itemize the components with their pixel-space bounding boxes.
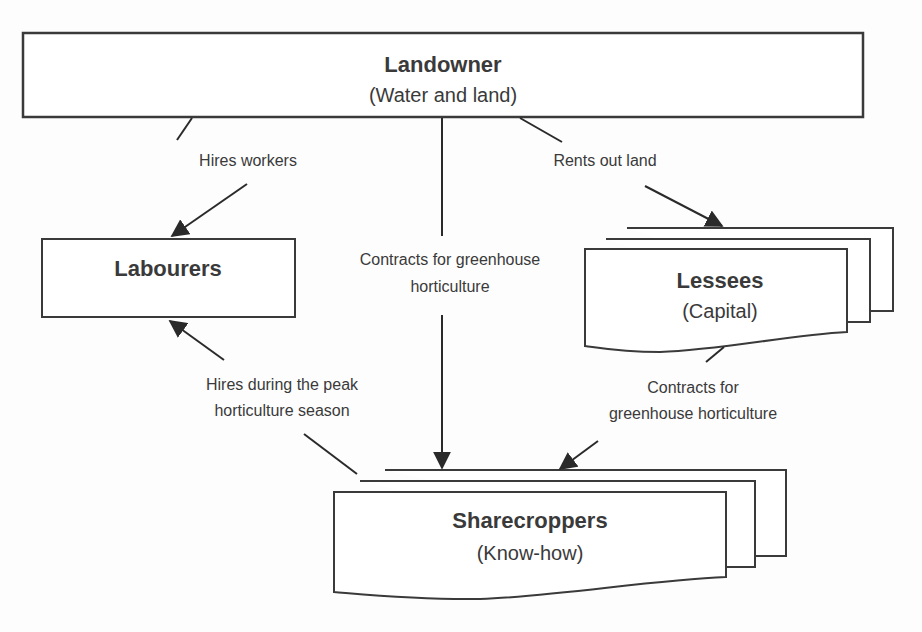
- sharecroppers-subtitle: (Know-how): [477, 542, 584, 564]
- label-hires-peak-1: Hires during the peak: [206, 376, 359, 393]
- landowner-title: Landowner: [384, 52, 502, 77]
- label-contracts-lessees-1: Contracts for: [647, 379, 739, 396]
- diagram-canvas: Landowner (Water and land) Labourers Les…: [0, 0, 922, 632]
- landowner-subtitle: (Water and land): [369, 84, 517, 106]
- label-rents-out-land: Rents out land: [553, 152, 656, 169]
- flow-diagram: Landowner (Water and land) Labourers Les…: [0, 0, 922, 632]
- label-contracts-lessees-2: greenhouse horticulture: [609, 405, 777, 422]
- lessees-title: Lessees: [677, 268, 764, 293]
- node-landowner: Landowner (Water and land): [23, 33, 863, 117]
- node-labourers: Labourers: [42, 239, 295, 317]
- sharecroppers-title: Sharecroppers: [452, 508, 607, 533]
- label-hires-peak-2: horticulture season: [214, 402, 349, 419]
- lessees-subtitle: (Capital): [682, 300, 758, 322]
- label-hires-workers: Hires workers: [199, 152, 297, 169]
- label-contracts-landowner-2: horticulture: [410, 278, 489, 295]
- label-contracts-landowner-1: Contracts for greenhouse: [360, 251, 541, 268]
- labourers-title: Labourers: [114, 256, 222, 281]
